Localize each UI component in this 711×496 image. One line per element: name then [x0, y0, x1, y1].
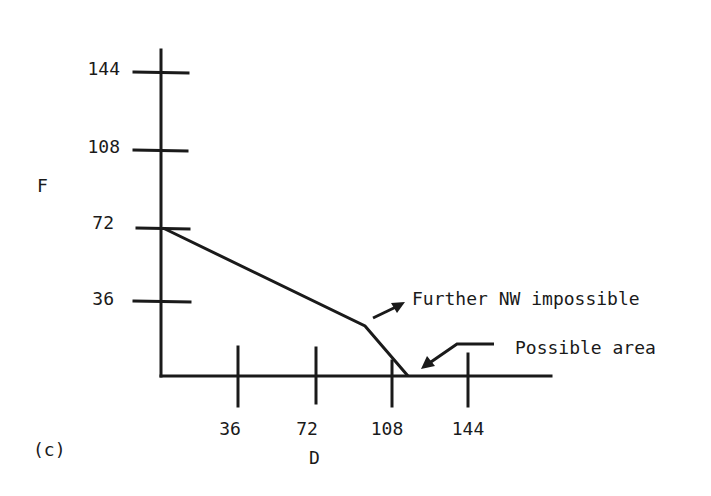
- y-tick-36: [134, 301, 190, 302]
- y-tick-label-36: 36: [54, 290, 114, 308]
- arrow-possible-icon: [421, 344, 494, 369]
- y-tick-label-144: 144: [60, 60, 120, 78]
- y-tick-108: [134, 150, 187, 151]
- annotation-impossible: Further NW impossible: [412, 290, 640, 308]
- x-tick-label-72: 72: [277, 420, 337, 438]
- boundary-line: [163, 228, 408, 376]
- x-tick-label-108: 108: [357, 420, 417, 438]
- x-tick-label-144: 144: [438, 420, 498, 438]
- y-axis-label: F: [37, 177, 48, 195]
- annotation-possible: Possible area: [515, 339, 656, 357]
- arrow-impossible-icon: [373, 302, 405, 318]
- y-tick-label-108: 108: [60, 138, 120, 156]
- panel-label: (c): [33, 441, 66, 459]
- x-tick-label-36: 36: [200, 420, 260, 438]
- y-tick-144: [134, 72, 188, 73]
- x-axis-label: D: [309, 449, 320, 467]
- y-tick-label-72: 72: [54, 214, 114, 232]
